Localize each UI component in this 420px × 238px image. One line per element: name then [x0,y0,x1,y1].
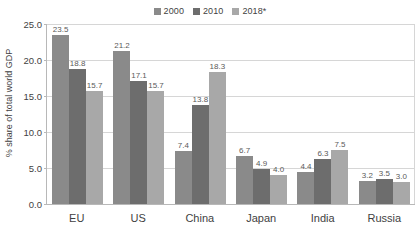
bar-value-label: 3.2 [362,172,373,180]
bar[interactable]: 13.8 [192,105,209,204]
bar[interactable]: 3.2 [359,181,376,204]
bar-slot: 7.5 [331,24,348,204]
bar[interactable]: 15.7 [147,91,164,204]
y-tick-label: 15.0 [24,91,43,102]
bar-value-label: 7.4 [178,142,189,150]
bar-group: 21.217.115.7 [108,24,169,204]
legend-swatch-icon [154,8,161,15]
bar-value-label: 18.3 [210,63,226,71]
bar-slot: 4.4 [297,24,314,204]
bar[interactable]: 23.5 [52,35,69,204]
bar-slot: 23.5 [52,24,69,204]
bar[interactable]: 18.8 [69,69,86,204]
bar-value-label: 13.8 [193,96,209,104]
bar-group: 4.46.37.5 [292,24,353,204]
bar[interactable]: 17.1 [130,81,147,204]
bar[interactable]: 6.7 [236,156,253,204]
bar-value-label: 15.7 [87,82,103,90]
bar-slot: 3.2 [359,24,376,204]
bar[interactable]: 3.5 [376,179,393,204]
bar-value-label: 7.5 [334,141,345,149]
bar[interactable]: 15.7 [86,91,103,204]
bar[interactable]: 21.2 [113,51,130,204]
y-tick-label: 5.0 [29,163,42,174]
bar-slot: 15.7 [147,24,164,204]
bar-value-label: 4.9 [256,160,267,168]
bar-slot: 13.8 [192,24,209,204]
y-tick-label: 10.0 [24,127,43,138]
x-axis-label: Japan [231,206,293,224]
bar-group: 23.518.815.7 [47,24,108,204]
y-tick-label: 20.0 [24,55,43,66]
x-axis-label: China [169,206,231,224]
bar[interactable]: 4.0 [270,175,287,204]
bar-value-label: 21.2 [114,42,130,50]
bar-chart: 200020102018* % share of total world GDP… [0,0,420,238]
bar-slot: 17.1 [130,24,147,204]
bar-slot: 15.7 [86,24,103,204]
legend-item[interactable]: 2018* [232,7,266,16]
bar-slot: 3.0 [393,24,410,204]
bar-value-label: 3.5 [379,170,390,178]
y-tick-mark [44,204,47,205]
legend-item[interactable]: 2010 [193,7,223,16]
bar-slot: 3.5 [376,24,393,204]
bar[interactable]: 6.3 [314,159,331,204]
legend-item[interactable]: 2000 [154,7,184,16]
bar[interactable]: 4.9 [253,169,270,204]
y-tick-label: 0.0 [29,199,42,210]
bar-group: 6.74.94.0 [231,24,292,204]
bar-value-label: 6.3 [317,150,328,158]
legend-label: 2000 [164,7,184,16]
bar-slot: 18.8 [69,24,86,204]
bar-value-label: 17.1 [131,72,147,80]
bar-value-label: 6.7 [239,147,250,155]
bar-group: 3.23.53.0 [354,24,415,204]
legend-swatch-icon [193,8,200,15]
y-axis-title: % share of total world GDP [2,0,16,205]
bar-slot: 21.2 [113,24,130,204]
bar-value-label: 15.7 [148,82,164,90]
bar-slot: 4.9 [253,24,270,204]
bar-group: 7.413.818.3 [170,24,231,204]
bar-slot: 18.3 [209,24,226,204]
bar[interactable]: 18.3 [209,72,226,204]
bar-slot: 4.0 [270,24,287,204]
x-axis-label: Russia [354,206,416,224]
y-tick-label: 25.0 [24,19,43,30]
x-axis-labels: EUUSChinaJapanIndiaRussia [46,206,415,224]
bar-slot: 7.4 [175,24,192,204]
gridline [47,204,415,205]
x-axis-label: EU [46,206,108,224]
chart-legend: 200020102018* [0,7,420,16]
x-axis-label: US [108,206,170,224]
bar[interactable]: 3.0 [393,182,410,204]
bar-value-label: 3.0 [396,173,407,181]
bar-value-label: 23.5 [53,26,69,34]
bar-value-label: 4.4 [300,163,311,171]
bar[interactable]: 7.4 [175,151,192,204]
x-axis-label: India [292,206,354,224]
y-axis-title-text: % share of total world GDP [4,48,14,157]
bar-groups: 23.518.815.721.217.115.77.413.818.36.74.… [47,24,415,204]
bar-slot: 6.7 [236,24,253,204]
legend-label: 2010 [203,7,223,16]
bar-value-label: 4.0 [273,166,284,174]
bar-slot: 6.3 [314,24,331,204]
legend-label: 2018* [242,7,266,16]
bar[interactable]: 7.5 [331,150,348,204]
plot-area: 0.05.010.015.020.025.0 23.518.815.721.21… [46,24,415,205]
legend-swatch-icon [232,8,239,15]
bar-value-label: 18.8 [70,60,86,68]
bar[interactable]: 4.4 [297,172,314,204]
